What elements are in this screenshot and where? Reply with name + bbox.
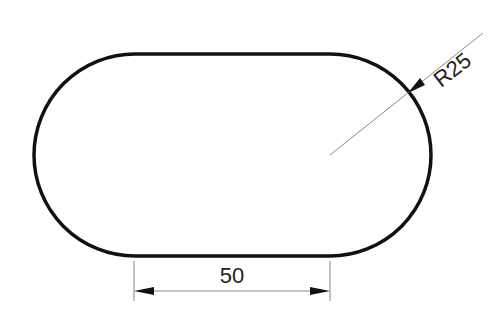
radius-arrowhead	[408, 78, 425, 93]
slot-outline	[34, 54, 431, 256]
dimension-label-50: 50	[220, 263, 244, 288]
drawing-svg: 50 R25	[0, 0, 500, 321]
dimension-label-r25: R25	[429, 47, 476, 92]
arrowhead-right	[310, 287, 330, 295]
arrowhead-left	[134, 287, 154, 295]
technical-drawing: 50 R25	[0, 0, 500, 321]
